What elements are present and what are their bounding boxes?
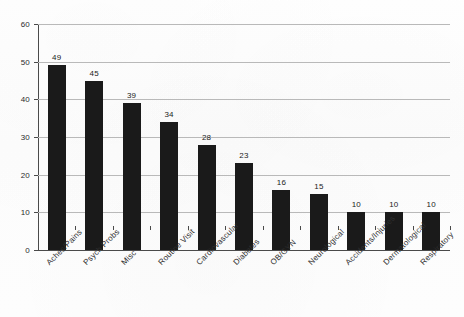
- x-tick-mark: [300, 226, 301, 230]
- y-tick-label: 30: [0, 133, 30, 142]
- bar: [160, 122, 178, 250]
- bar-value-label: 10: [389, 200, 398, 209]
- gridline: [38, 62, 450, 63]
- bar: [235, 163, 253, 250]
- y-tick-label: 50: [0, 57, 30, 66]
- y-tick-mark: [34, 212, 38, 213]
- bar-value-label: 10: [427, 200, 436, 209]
- bar-chart: 4945393428231615101010 0102030405060 Ach…: [0, 0, 464, 317]
- category-label: Misc: [119, 248, 138, 267]
- y-tick-mark: [34, 62, 38, 63]
- y-tick-label: 20: [0, 170, 30, 179]
- bar-value-label: 49: [52, 53, 61, 62]
- bar-value-label: 34: [164, 110, 173, 119]
- y-tick-mark: [34, 99, 38, 100]
- x-tick-mark: [150, 226, 151, 230]
- bar: [123, 103, 141, 250]
- y-tick-mark: [34, 175, 38, 176]
- bar-value-label: 15: [314, 182, 323, 191]
- bar-value-label: 39: [127, 91, 136, 100]
- bar-value-label: 28: [202, 133, 211, 142]
- y-tick-label: 60: [0, 20, 30, 29]
- y-tick-mark: [34, 250, 38, 251]
- bar: [85, 81, 103, 251]
- y-tick-label: 40: [0, 95, 30, 104]
- x-tick-mark: [263, 226, 264, 230]
- y-tick-mark: [34, 137, 38, 138]
- y-tick-label: 0: [0, 246, 30, 255]
- bar-value-label: 16: [277, 178, 286, 187]
- y-tick-label: 10: [0, 208, 30, 217]
- x-tick-mark: [450, 226, 451, 230]
- bar: [198, 145, 216, 250]
- bar-value-label: 10: [352, 200, 361, 209]
- gridline: [38, 24, 450, 25]
- y-tick-mark: [34, 24, 38, 25]
- bar-value-label: 23: [239, 151, 248, 160]
- bar: [48, 65, 66, 250]
- bar-value-label: 45: [90, 69, 99, 78]
